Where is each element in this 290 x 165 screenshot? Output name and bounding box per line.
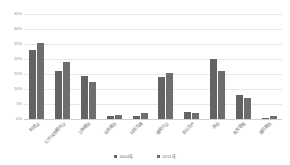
x-axis-tick-label: 其他 — [212, 121, 221, 130]
y-axis-tick-label: 5% — [16, 102, 22, 106]
bar[interactable] — [115, 115, 122, 120]
legend-swatch-icon — [157, 155, 160, 158]
x-axis-tick: 居民服务 — [256, 120, 282, 150]
bar[interactable] — [63, 62, 70, 119]
bar-group — [24, 14, 50, 119]
bar-group — [50, 14, 76, 119]
bar-group — [256, 14, 282, 119]
x-axis-tick: 批发零售 — [230, 120, 256, 150]
y-axis: 35%30%25%20%15%10%5%0% — [0, 0, 24, 119]
bar[interactable] — [270, 116, 277, 119]
y-axis-tick-label: 30% — [14, 27, 22, 31]
legend-item[interactable]: 2004年 — [114, 154, 133, 159]
x-axis-tick-label: 工商服务 — [77, 121, 92, 136]
bar-chart: 35%30%25%20%15%10%5%0% 制造业公共设施服务业工商服务信息服… — [0, 0, 290, 165]
legend-item[interactable]: 2011年 — [157, 154, 175, 159]
x-axis-tick: 科技交通 — [127, 120, 153, 150]
legend-label: 2004年 — [119, 154, 133, 159]
bar[interactable] — [133, 116, 140, 119]
bar[interactable] — [166, 73, 173, 120]
bar[interactable] — [218, 71, 225, 119]
x-axis-tick: 建筑行业 — [153, 120, 179, 150]
legend-swatch-icon — [114, 155, 117, 158]
bar[interactable] — [192, 113, 199, 119]
x-axis-tick-label: 居民服务 — [258, 121, 273, 136]
bar[interactable] — [141, 113, 148, 119]
x-axis-tick-label: 建筑行业 — [155, 121, 170, 136]
x-axis-tick: 制造业 — [24, 120, 50, 150]
bar-group — [205, 14, 231, 119]
bar-group — [127, 14, 153, 119]
bar[interactable] — [262, 118, 269, 120]
bar-group — [230, 14, 256, 119]
legend-label: 2011年 — [162, 154, 175, 159]
bar[interactable] — [89, 82, 96, 120]
bar[interactable] — [55, 71, 62, 119]
x-axis-tick-label: 科技交通 — [129, 121, 144, 136]
bar-group — [76, 14, 102, 119]
x-axis-tick-label: 制造业 — [28, 121, 40, 133]
x-axis-tick: 其他 — [205, 120, 231, 150]
bar[interactable] — [236, 95, 243, 119]
bar[interactable] — [81, 76, 88, 120]
x-axis-tick: 农业生产 — [179, 120, 205, 150]
x-axis-tick: 工商服务 — [76, 120, 102, 150]
x-axis-tick-label: 批发零售 — [232, 121, 247, 136]
bar[interactable] — [107, 116, 114, 119]
bar[interactable] — [184, 112, 191, 120]
y-axis-tick-label: 35% — [14, 12, 22, 16]
bar[interactable] — [158, 77, 165, 119]
y-axis-tick-label: 0% — [16, 117, 22, 121]
y-axis-tick-label: 25% — [14, 42, 22, 46]
x-axis-tick-label: 信息服务 — [103, 121, 118, 136]
x-axis-tick: 信息服务 — [101, 120, 127, 150]
chart-legend: 2004年2011年 — [0, 150, 290, 162]
x-axis: 制造业公共设施服务业工商服务信息服务科技交通建筑行业农业生产其他批发零售居民服务 — [24, 120, 282, 150]
bar[interactable] — [210, 59, 217, 119]
y-axis-tick-label: 10% — [14, 87, 22, 91]
bar-group — [101, 14, 127, 119]
y-axis-tick-label: 15% — [14, 72, 22, 76]
bar-group — [153, 14, 179, 119]
y-axis-tick-label: 20% — [14, 57, 22, 61]
bar-group — [179, 14, 205, 119]
bar[interactable] — [29, 50, 36, 119]
bar[interactable] — [244, 98, 251, 119]
plot-area — [24, 14, 282, 119]
x-axis-tick-label: 农业生产 — [180, 121, 195, 136]
bar-series-container — [24, 14, 282, 119]
x-axis-tick: 公共设施服务业 — [50, 120, 76, 150]
bar[interactable] — [37, 43, 44, 120]
